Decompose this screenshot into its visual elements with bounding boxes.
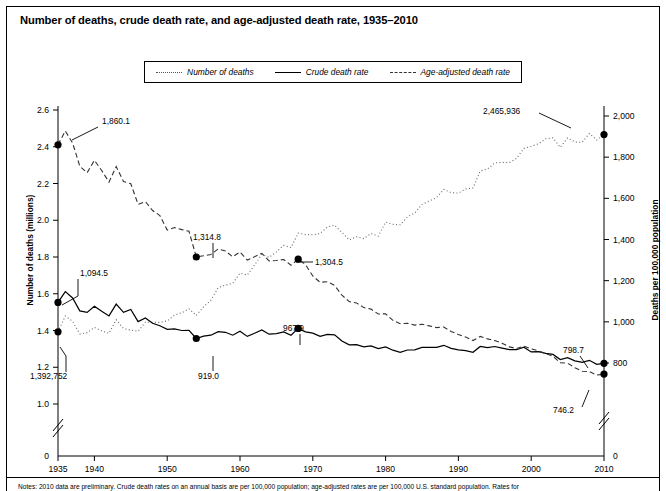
- data-point-label: 1,304.5: [315, 257, 343, 267]
- right-axis-tick-label: 1,000: [613, 317, 635, 327]
- x-axis-tick-label: 2000: [522, 464, 541, 474]
- right-axis-zero-label: 0: [613, 451, 618, 461]
- x-axis-tick-label: 2010: [594, 464, 613, 474]
- left-axis-zero-label: 0: [44, 451, 49, 461]
- x-axis-tick-label: 1960: [230, 464, 249, 474]
- right-axis-tick-label: 1,600: [613, 193, 635, 203]
- left-axis-tick-label: 1.0: [37, 399, 49, 409]
- data-point-label: 919.0: [198, 371, 219, 381]
- right-axis-tick-label: 1,800: [613, 152, 635, 162]
- left-axis-tick-label: 2.4: [37, 142, 49, 152]
- left-axis-tick-label: 2.2: [37, 179, 49, 189]
- data-point-label: 746.2: [553, 405, 574, 415]
- annotation-leader-line: [60, 347, 66, 372]
- data-point-marker: [54, 141, 61, 148]
- left-axis-title: Number of deaths (millions): [25, 160, 35, 340]
- data-point-marker: [193, 335, 200, 342]
- series-crude-death-rate: [58, 292, 604, 365]
- x-axis-tick-label: 1990: [449, 464, 468, 474]
- x-axis-tick-label: 1935: [48, 464, 67, 474]
- annotation-leader-line: [539, 113, 571, 128]
- data-point-label: 1,860.1: [102, 116, 130, 126]
- left-axis-tick-label: 1.6: [37, 289, 49, 299]
- left-axis-tick-label: 1.8: [37, 252, 49, 262]
- chart-page: Number of deaths, crude death rate, and …: [0, 0, 666, 491]
- left-axis-tick-label: 2.0: [37, 215, 49, 225]
- left-axis-tick-label: 2.6: [37, 105, 49, 115]
- data-point-label: 967.9: [283, 323, 304, 333]
- data-point-marker: [600, 360, 607, 367]
- x-axis-tick-label: 1970: [303, 464, 322, 474]
- data-point-label: 2,465,936: [483, 106, 521, 116]
- annotation-leader-line: [582, 390, 589, 407]
- data-point-marker: [600, 371, 607, 378]
- data-point-marker: [193, 253, 200, 260]
- right-axis-tick-label: 1,200: [613, 276, 635, 286]
- series-age-adjusted-death-rate: [58, 131, 604, 375]
- data-point-label: 1,392,752: [30, 371, 68, 381]
- right-axis-tick-label: 2,000: [613, 111, 635, 121]
- annotation-leader-line: [72, 127, 98, 140]
- chart-canvas: 2.62.42.22.01.81.61.41.21.002,0001,8001,…: [0, 0, 666, 491]
- data-point-marker: [54, 299, 61, 306]
- data-point-label: 1,314.8: [193, 232, 221, 242]
- plot-area: 2.62.42.22.01.81.61.41.21.002,0001,8001,…: [0, 0, 666, 491]
- right-axis-tick-label: 800: [613, 358, 628, 368]
- data-point-marker: [295, 256, 302, 263]
- data-point-marker: [600, 131, 607, 138]
- x-axis-tick-label: 1940: [85, 464, 104, 474]
- chart-footnote: Notes: 2010 data are preliminary. Crude …: [18, 483, 648, 491]
- data-point-marker: [54, 328, 61, 335]
- x-axis-tick-label: 1950: [158, 464, 177, 474]
- right-axis-tick-label: 1,400: [613, 235, 635, 245]
- x-axis-tick-label: 1980: [376, 464, 395, 474]
- series-number-of-deaths: [58, 134, 604, 335]
- left-axis-tick-label: 1.4: [37, 326, 49, 336]
- data-point-label: 798.7: [563, 345, 584, 355]
- data-point-label: 1,094.5: [80, 268, 108, 278]
- right-axis-title: Deaths per 100,000 population: [650, 170, 660, 350]
